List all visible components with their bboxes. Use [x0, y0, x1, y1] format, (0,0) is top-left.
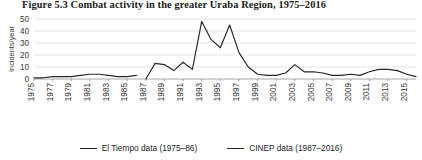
- figure-title: Figure 5.3 Combat activity in the greate…: [22, 0, 414, 10]
- x-tick-label: 2015: [400, 83, 409, 102]
- legend-label: El Tiempo data (1975–86): [102, 143, 197, 153]
- x-tick-label: 2003: [288, 83, 297, 102]
- legend-line-swatch: [80, 148, 97, 149]
- series-line-2: [146, 21, 416, 79]
- figure-container: Figure 5.3 Combat activity in the greate…: [0, 0, 422, 160]
- y-tick-label: 50: [20, 15, 30, 24]
- legend-item: El Tiempo data (1975–86): [80, 143, 197, 153]
- x-tick-label: 2001: [269, 83, 278, 102]
- plot-area: 01020304050 1975197719791981198319851987…: [0, 12, 422, 117]
- x-tick-label: 1975: [27, 83, 36, 102]
- y-tick-label: 30: [20, 39, 30, 48]
- x-tick-label: 1989: [157, 83, 166, 102]
- x-tick-label: 1985: [120, 83, 129, 102]
- x-tick-label: 1987: [139, 83, 148, 102]
- x-tick-label: 1995: [213, 83, 222, 102]
- series-line-1: [34, 74, 136, 78]
- x-tick-label: 2009: [344, 83, 353, 102]
- y-tick-label: 20: [20, 51, 30, 60]
- legend-line-swatch: [227, 148, 244, 149]
- x-axis-ticks: 1975197719791981198319851987198919911993…: [27, 79, 409, 101]
- y-tick-label: 0: [24, 75, 29, 84]
- y-axis-ticks: 01020304050: [20, 15, 30, 84]
- x-tick-label: 1991: [176, 83, 185, 102]
- x-tick-label: 1979: [64, 83, 73, 102]
- x-tick-label: 1999: [251, 83, 260, 102]
- data-series-group: [34, 21, 416, 79]
- x-tick-label: 2007: [325, 83, 334, 102]
- x-tick-label: 1997: [232, 83, 241, 102]
- x-tick-label: 1977: [46, 83, 55, 102]
- y-tick-label: 40: [20, 27, 30, 36]
- x-tick-label: 1983: [102, 83, 111, 102]
- x-tick-label: 1981: [83, 83, 92, 102]
- legend-item: CINEP data (1987–2016): [227, 143, 342, 153]
- line-chart: 01020304050 1975197719791981198319851987…: [0, 12, 422, 117]
- y-axis-label: Incidents/year: [7, 25, 16, 72]
- x-tick-label: 2013: [381, 83, 390, 102]
- x-tick-label: 1993: [195, 83, 204, 102]
- x-tick-label: 2005: [307, 83, 316, 102]
- x-tick-label: 2011: [362, 83, 371, 101]
- chart-legend: El Tiempo data (1975–86)CINEP data (1987…: [0, 143, 422, 153]
- y-tick-label: 10: [20, 63, 30, 72]
- legend-label: CINEP data (1987–2016): [249, 143, 342, 153]
- gridlines: [34, 19, 416, 79]
